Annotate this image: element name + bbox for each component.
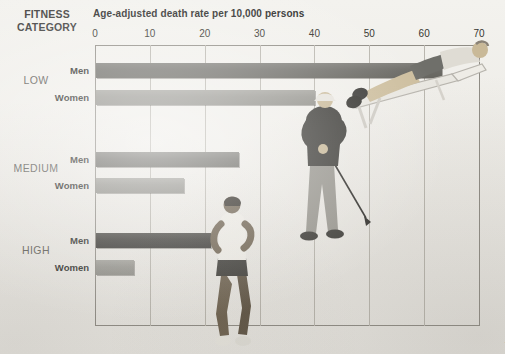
group-label-low: LOW [5,74,67,86]
bar-medium-women [96,178,184,193]
bar-high-men [96,233,211,248]
row-label-high-women: Women [17,262,89,273]
axis-bottom-line [95,325,479,326]
x-tick-label-70: 70 [473,28,484,39]
bar-high-women [96,260,134,275]
gridline-50 [369,45,370,326]
plot-area: 010203040506070 [95,45,479,326]
group-label-high: HIGH [5,244,67,256]
x-tick-label-60: 60 [419,28,430,39]
x-tick-label-10: 10 [144,28,155,39]
fitness-category-header-line1: FITNESS [8,8,86,21]
bar-medium-men [96,152,239,167]
row-label-medium-women: Women [17,180,89,191]
group-label-medium: MEDIUM [5,162,67,174]
gridline-40 [314,45,315,326]
x-tick-label-30: 30 [254,28,265,39]
gridline-60 [424,45,425,326]
bar-low-women [96,90,315,105]
x-tick-label-20: 20 [199,28,210,39]
bar-low-men [96,63,442,78]
gridline-20 [205,45,206,326]
row-label-low-women: Women [17,92,89,103]
gridline-70 [479,45,480,326]
x-tick-label-0: 0 [92,28,98,39]
fitness-category-header: FITNESS CATEGORY [8,8,86,33]
axis-top-line [95,45,479,46]
x-tick-label-40: 40 [309,28,320,39]
chart-axis-title: Age-adjusted death rate per 10,000 perso… [93,8,305,19]
fitness-category-header-line2: CATEGORY [8,21,86,34]
x-tick-label-50: 50 [364,28,375,39]
gridline-30 [260,45,261,326]
chart-page: FITNESS CATEGORY Age-adjusted death rate… [0,0,505,354]
